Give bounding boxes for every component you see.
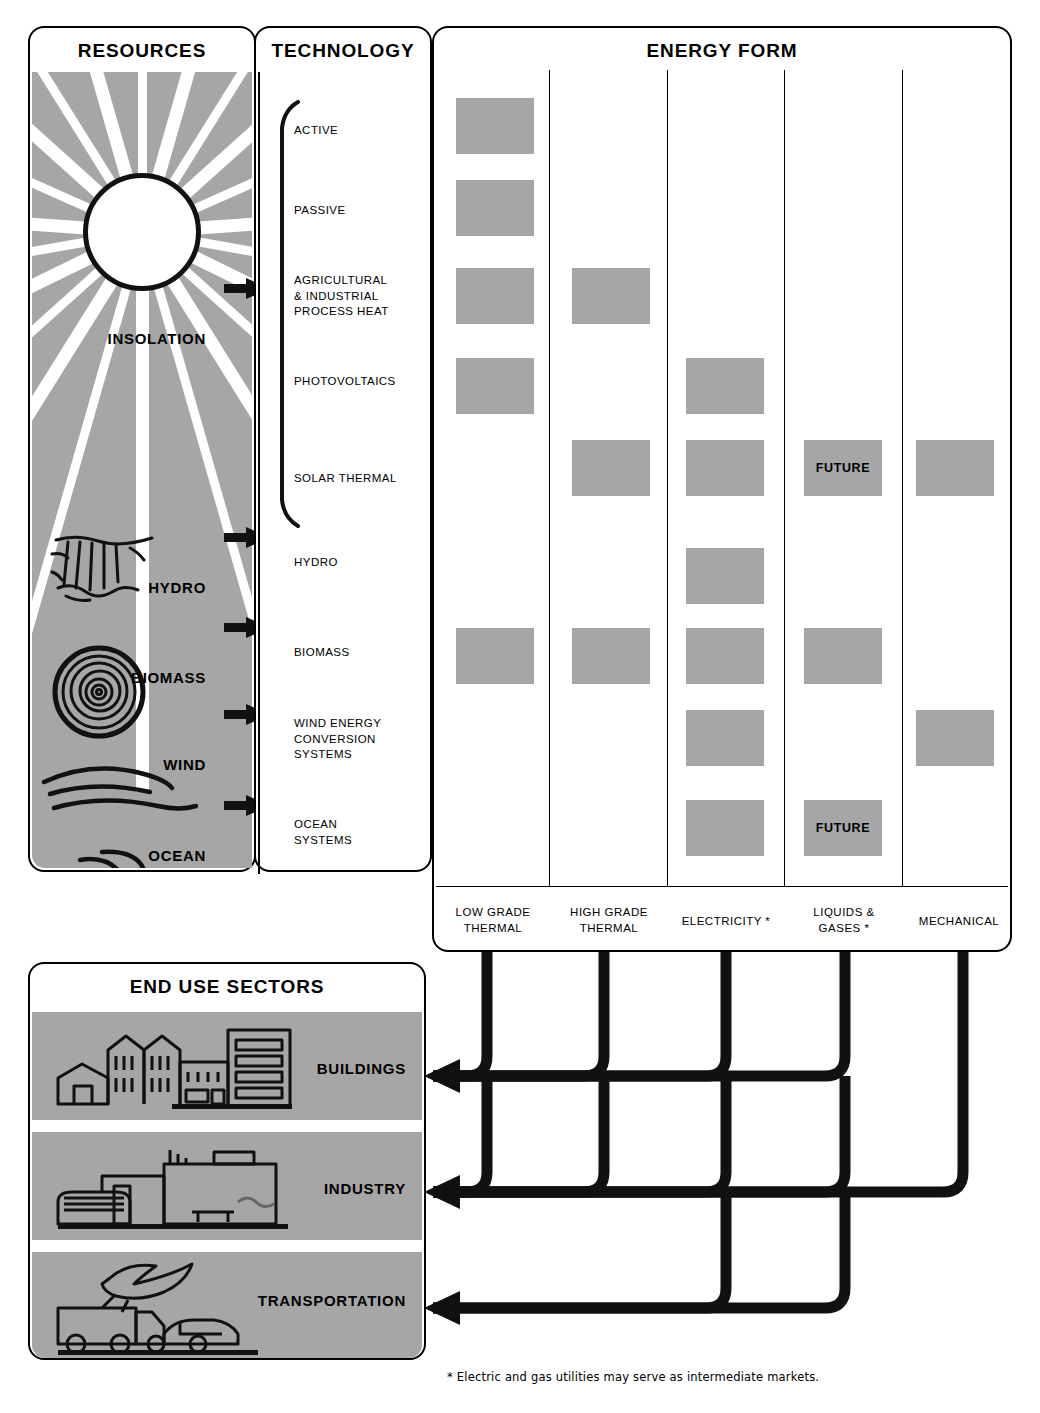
energy-column-rule-1 (549, 70, 550, 886)
energy-cell-biomass-liquids-gases (804, 628, 882, 684)
energy-form-panel: ENERGY FORM FUTURE (432, 26, 1012, 952)
energy-column-header-low-grade-thermal: LOW GRADE THERMAL (440, 904, 546, 936)
energy-cell-active-low-grade-thermal (456, 98, 534, 154)
solar-group-bracket (272, 100, 302, 528)
route-high-grade-thermal-to-industry (433, 1076, 604, 1192)
technology-item-photovoltaics: PHOTOVOLTAICS (294, 374, 396, 390)
energy-cell-wecs-mechanical (916, 710, 994, 766)
technology-item-hydro: HYDRO (294, 555, 338, 571)
energy-column-header-mechanical: MECHANICAL (906, 913, 1012, 929)
energy-cell-biomass-low-grade-thermal (456, 628, 534, 684)
energy-cell-biomass-electricity (686, 628, 764, 684)
energy-cell-ocean-liquids-gases: FUTURE (804, 800, 882, 856)
buildings-icon (52, 1022, 292, 1114)
route-liquids-gases-to-transportation (433, 1192, 845, 1308)
energy-cell-photovoltaics-electricity (686, 358, 764, 414)
energy-column-rule-4 (902, 70, 903, 886)
energy-column-rule-2 (667, 70, 668, 886)
future-badge-ocean: FUTURE (816, 821, 870, 835)
energy-header-divider (436, 886, 1008, 887)
route-low-grade-thermal-to-buildings (433, 952, 487, 1076)
energy-cell-process-heat-low-grade-thermal (456, 268, 534, 324)
route-electricity-to-industry (433, 1076, 726, 1192)
energy-column-rule-3 (784, 70, 785, 886)
route-electricity-to-buildings (433, 952, 726, 1076)
factory-icon (52, 1144, 292, 1232)
route-low-grade-thermal-to-industry (433, 1076, 487, 1192)
resource-label-biomass: BIOMASS (131, 669, 206, 686)
end-use-label-buildings: BUILDINGS (317, 1060, 406, 1077)
energy-cell-passive-low-grade-thermal (456, 180, 534, 236)
energy-cell-solar-thermal-liquids-gases: FUTURE (804, 440, 882, 496)
truck-car-plane-icon (52, 1256, 292, 1356)
resource-label-ocean: OCEAN (148, 847, 206, 864)
route-liquids-gases-to-buildings (433, 952, 845, 1076)
route-liquids-gases-to-industry (433, 1076, 845, 1192)
energy-cell-wecs-electricity (686, 710, 764, 766)
energy-cell-hydro-electricity (686, 548, 764, 604)
technology-item-process-heat: AGRICULTURAL & INDUSTRIAL PROCESS HEAT (294, 273, 389, 320)
route-high-grade-thermal-to-buildings (433, 952, 604, 1076)
route-mechanical-to-industry (433, 952, 963, 1192)
energy-column-header-liquids-gases: LIQUIDS & GASES * (790, 904, 898, 936)
sun-icon (83, 173, 201, 291)
end-use-label-industry: INDUSTRY (324, 1180, 406, 1197)
energy-cell-ocean-electricity (686, 800, 764, 856)
technology-panel: TECHNOLOGY ACTIVE PASSIVE AGRICULTURAL &… (254, 26, 432, 872)
resource-label-hydro: HYDRO (148, 579, 206, 596)
energy-cell-process-heat-high-grade-thermal (572, 268, 650, 324)
technology-item-solar-thermal: SOLAR THERMAL (294, 471, 397, 487)
end-use-sectors-panel: END USE SECTORS (28, 962, 426, 1360)
resource-label-wind: WIND (163, 756, 206, 773)
technology-item-ocean-systems: OCEAN SYSTEMS (294, 817, 352, 848)
log-cross-section-icon (50, 644, 148, 740)
sun-ray (32, 229, 148, 711)
route-arrowhead-industry (424, 1175, 460, 1209)
resource-label-insolation: INSOLATION (108, 330, 206, 347)
technology-title: TECHNOLOGY (256, 40, 430, 62)
route-arrowhead-transportation (424, 1291, 460, 1325)
end-use-label-transportation: TRANSPORTATION (258, 1292, 406, 1309)
end-use-sectors-title: END USE SECTORS (30, 976, 424, 998)
footnote: * Electric and gas utilities may serve a… (447, 1370, 819, 1384)
energy-cell-solar-thermal-mechanical (916, 440, 994, 496)
waterfall-icon (46, 532, 166, 610)
future-badge-solar-thermal: FUTURE (816, 461, 870, 475)
technology-left-rule (258, 72, 260, 874)
energy-cell-biomass-high-grade-thermal (572, 628, 650, 684)
technology-item-wecs: WIND ENERGY CONVERSION SYSTEMS (294, 716, 381, 763)
energy-column-header-high-grade-thermal: HIGH GRADE THERMAL (556, 904, 662, 936)
energy-column-header-electricity: ELECTRICITY * (672, 913, 780, 929)
diagram-canvas: RESOURCES (0, 0, 1040, 1413)
route-electricity-to-transportation (433, 1192, 726, 1308)
energy-cell-solar-thermal-high-grade-thermal (572, 440, 650, 496)
energy-cell-photovoltaics-low-grade-thermal (456, 358, 534, 414)
technology-item-biomass: BIOMASS (294, 645, 350, 661)
energy-cell-solar-thermal-electricity (686, 440, 764, 496)
route-arrowhead-buildings (424, 1059, 460, 1093)
energy-form-title: ENERGY FORM (434, 40, 1010, 62)
